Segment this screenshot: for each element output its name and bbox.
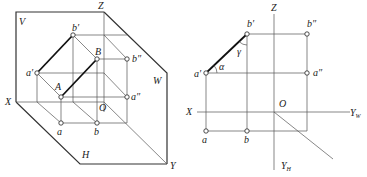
label-A: A (54, 81, 62, 92)
point-b-prime (245, 32, 249, 36)
label-alpha: α (219, 61, 225, 72)
label-b-double-prime: b″ (132, 53, 142, 64)
point-a-prime (35, 71, 39, 75)
angle-alpha-arc (214, 66, 217, 74)
label-a: a (57, 126, 62, 137)
label-b-prime: b′ (72, 22, 80, 33)
label-a-double-prime: a″ (131, 91, 141, 102)
point-a (59, 121, 63, 125)
label-gamma: γ (237, 46, 242, 57)
label-a-prime: a′ (26, 67, 34, 78)
proj-line (73, 102, 97, 123)
label-a-prime: a′ (194, 68, 202, 79)
point-b (95, 121, 99, 125)
label-Z: Z (271, 2, 277, 13)
proj-line (104, 35, 127, 59)
point-b (245, 129, 249, 133)
line-a-prime-b-prime (37, 35, 73, 73)
label-b: b (244, 134, 249, 145)
label-W: W (153, 75, 163, 86)
proj-line (37, 102, 61, 123)
point-b-double-prime (305, 32, 309, 36)
h-plane-frame (16, 102, 167, 164)
label-YW: YW (350, 107, 362, 119)
label-Y: Y (170, 160, 177, 171)
point-a-double-prime (305, 71, 309, 75)
label-a-double-prime: a″ (313, 67, 323, 78)
label-O: O (279, 98, 286, 109)
label-a: a (202, 134, 207, 145)
point-a (204, 129, 208, 133)
angle-gamma-arc (240, 42, 248, 45)
label-YH: YH (281, 160, 292, 172)
point-a-prime (204, 71, 208, 75)
label-X: X (185, 106, 193, 117)
line-AB (61, 59, 97, 97)
label-H: H (81, 149, 90, 160)
label-X: X (4, 96, 12, 107)
proj-line (104, 73, 127, 97)
label-Z: Z (98, 0, 104, 11)
label-b-prime: b′ (247, 18, 255, 29)
point-b-prime (71, 33, 75, 37)
left-figure-3d-projection: V Z W X O H Y b′ B b″ a′ A a″ a b (4, 0, 177, 171)
projection-diagram: V Z W X O H Y b′ B b″ a′ A a″ a b (0, 0, 367, 177)
point-a-double-prime (125, 95, 129, 99)
point-A (59, 95, 63, 99)
right-figure-orthographic-projection: Z X O YW YH b′ b″ a′ a″ a b α γ (185, 2, 362, 172)
oy-axis-line (104, 102, 167, 164)
proj-line (73, 35, 97, 59)
label-O: O (99, 102, 106, 113)
label-b-double-prime: b″ (307, 18, 317, 29)
point-b-double-prime (125, 57, 129, 61)
miter-line (274, 112, 333, 159)
point-B (95, 57, 99, 61)
label-b: b (94, 126, 99, 137)
label-V: V (19, 16, 27, 27)
label-B: B (95, 46, 101, 57)
